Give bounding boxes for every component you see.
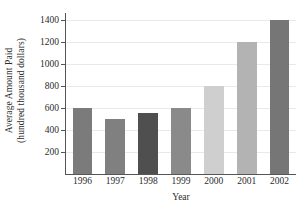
plot-area: 200400600800100012001400 xyxy=(66,14,296,174)
bar-chart-figure: Average Amount Paid (hundred thousand do… xyxy=(0,0,306,213)
x-axis-tick-labels: 1996199719981999200020012002 xyxy=(66,176,296,190)
y-tick-label: 200 xyxy=(25,147,59,157)
bar xyxy=(237,42,257,174)
bar xyxy=(105,119,125,174)
x-tick-label: 2002 xyxy=(270,176,289,186)
x-tick-label: 2000 xyxy=(204,176,223,186)
y-tick-label: 1000 xyxy=(25,59,59,69)
x-tick-label: 1996 xyxy=(73,176,92,186)
bar xyxy=(138,113,158,174)
x-tick-label: 2001 xyxy=(237,176,256,186)
x-axis-spine xyxy=(65,174,296,175)
y-tick-label: 1200 xyxy=(25,37,59,47)
x-tick-label: 1998 xyxy=(139,176,158,186)
y-axis-title-line1: Average Amount Paid xyxy=(4,38,16,143)
bar xyxy=(171,108,191,174)
x-axis-title: Year xyxy=(66,192,296,202)
y-tick-label: 400 xyxy=(25,125,59,135)
y-tick-label: 1400 xyxy=(25,15,59,25)
bar-series xyxy=(66,14,296,174)
bar xyxy=(73,108,93,174)
y-tick-label: 800 xyxy=(25,81,59,91)
bar xyxy=(204,86,224,174)
x-tick-label: 1999 xyxy=(172,176,191,186)
y-tick-label: 600 xyxy=(25,103,59,113)
bar xyxy=(270,20,290,174)
x-tick-label: 1997 xyxy=(106,176,125,186)
